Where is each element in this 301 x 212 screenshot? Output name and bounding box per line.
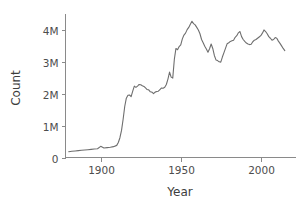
y-tick-label: 3M bbox=[43, 57, 59, 69]
x-tick-label: 1900 bbox=[88, 164, 115, 176]
line-chart-plot: 01M2M3M4M 190019502000 Count Year bbox=[0, 0, 301, 212]
chart-container: 01M2M3M4M 190019502000 Count Year bbox=[0, 0, 301, 212]
y-axis-ticks bbox=[62, 31, 66, 159]
y-axis: 01M2M3M4M bbox=[43, 14, 66, 165]
y-axis-tick-labels: 01M2M3M4M bbox=[43, 25, 59, 165]
x-axis-tick-labels: 190019502000 bbox=[88, 164, 275, 176]
x-tick-label: 1950 bbox=[168, 164, 195, 176]
x-axis: 190019502000 bbox=[66, 158, 297, 176]
y-tick-label: 1M bbox=[43, 121, 59, 133]
x-axis-ticks bbox=[102, 158, 262, 162]
y-tick-label: 0 bbox=[52, 153, 59, 165]
data-series-line bbox=[69, 21, 285, 151]
y-tick-label: 2M bbox=[43, 89, 59, 101]
y-axis-title: Count bbox=[9, 70, 23, 106]
x-axis-title: Year bbox=[166, 185, 192, 199]
y-tick-label: 4M bbox=[43, 25, 59, 37]
x-tick-label: 2000 bbox=[248, 164, 275, 176]
